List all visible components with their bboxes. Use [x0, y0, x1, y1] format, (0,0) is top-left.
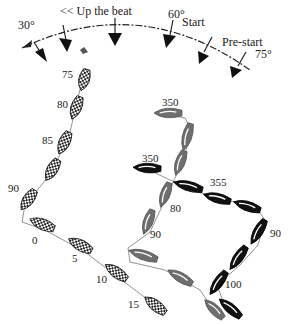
angle-label-30: 30° — [18, 18, 35, 32]
start-label: Start — [182, 15, 205, 29]
heading-label-75: 75 — [62, 68, 74, 80]
grey-boat — [165, 266, 194, 288]
heading-label-0: 0 — [32, 234, 38, 246]
checkered-boat — [54, 130, 74, 156]
mark-buoy-icon — [80, 47, 88, 54]
heading-label-350: 350 — [162, 96, 179, 108]
heading-label-15: 15 — [128, 298, 140, 310]
heading-label-90: 90 — [270, 227, 282, 239]
wind-arrow — [163, 20, 176, 48]
heading-label-80: 80 — [170, 202, 182, 214]
wind-arrow — [34, 42, 47, 62]
checkered-boat — [66, 234, 94, 256]
heading-label-350: 350 — [142, 152, 159, 164]
grey-boat — [171, 149, 189, 177]
checkered-boat — [67, 95, 85, 121]
wind-arrow — [59, 25, 72, 52]
checkered-boat — [41, 157, 62, 183]
checkered-boat — [28, 214, 56, 234]
checkered-track — [22, 68, 155, 305]
heading-label-355: 355 — [210, 176, 227, 188]
heading-label-80: 80 — [57, 98, 69, 110]
black-boat — [232, 197, 262, 215]
grey-boat — [127, 246, 159, 264]
grey-boat — [154, 108, 182, 118]
black-boat — [133, 162, 161, 173]
heading-label-10: 10 — [96, 273, 108, 285]
wind-arrow — [108, 18, 122, 46]
wind-arrow — [230, 52, 246, 78]
up-the-beat-label: << Up the beat — [60, 4, 133, 18]
wind-arc — [22, 25, 250, 70]
checkered-boat — [17, 187, 40, 213]
black-boat — [172, 177, 203, 194]
heading-label-90: 90 — [150, 228, 162, 240]
heading-label-90: 90 — [8, 182, 20, 194]
checkered-boat — [76, 68, 92, 92]
grey-boat — [179, 122, 196, 152]
black-boat — [202, 190, 232, 207]
checkered-boat — [141, 293, 168, 318]
angle-label-75: 75° — [255, 47, 272, 61]
heading-label-100: 100 — [225, 278, 242, 290]
black-boat — [247, 217, 269, 246]
sailing-maneuver-diagram: 30° << Up the beat 60° Start Pre-start 7… — [0, 0, 290, 325]
heading-label-85: 85 — [42, 134, 54, 146]
heading-label-5: 5 — [72, 252, 78, 264]
